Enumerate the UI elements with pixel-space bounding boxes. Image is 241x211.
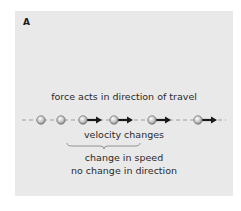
object-position-ball xyxy=(79,116,87,124)
velocity-arrow-head-icon xyxy=(96,117,102,124)
effect-line-direction: no change in direction xyxy=(15,165,233,176)
object-position-ball xyxy=(148,116,156,124)
object-position-ball xyxy=(110,116,118,124)
balls-layer xyxy=(37,116,217,124)
grouping-brace xyxy=(67,143,140,149)
velocity-arrow-head-icon xyxy=(165,117,171,124)
motion-diagram xyxy=(0,0,241,211)
object-position-ball xyxy=(37,116,45,124)
object-position-ball xyxy=(194,116,202,124)
velocity-label: velocity changes xyxy=(15,129,233,140)
object-position-ball xyxy=(57,116,65,124)
effect-line-speed: change in speed xyxy=(15,152,233,163)
velocity-arrow-head-icon xyxy=(127,117,133,124)
velocity-arrow-head-icon xyxy=(211,117,217,124)
